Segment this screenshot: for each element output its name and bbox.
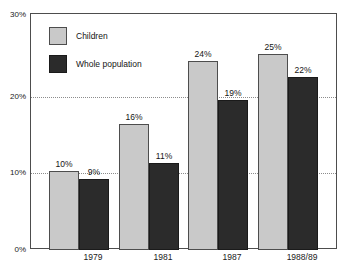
y-tick-label-0: 0% — [14, 245, 26, 254]
bar-whole-population-1988-89 — [288, 77, 318, 250]
value-label-whole-population-1987: 19% — [224, 88, 241, 98]
legend: Children Whole population — [49, 26, 142, 82]
y-tick-label-20: 20% — [10, 92, 26, 101]
legend-label-children: Children — [76, 31, 108, 41]
x-tick-label-1987: 1987 — [223, 252, 242, 262]
legend-item-whole-population: Whole population — [49, 54, 142, 74]
y-tick-label-10: 10% — [10, 168, 26, 177]
x-tick-label-1988-89: 1988/89 — [287, 252, 318, 262]
bar-children-1988-89 — [258, 54, 288, 250]
bar-chart-figure: 0% 10% 20% 30% 10% 9% 16% 11% 24% 19% 25… — [0, 0, 347, 274]
y-tick-label-30: 30% — [10, 10, 26, 19]
bar-whole-population-1981 — [149, 163, 179, 250]
bar-whole-population-1979 — [79, 179, 109, 250]
value-label-children-1987: 24% — [194, 49, 211, 59]
value-label-children-1979: 10% — [55, 159, 72, 169]
value-label-whole-population-1988-89: 22% — [294, 65, 311, 75]
legend-label-whole-population: Whole population — [76, 59, 142, 69]
x-tick-label-1981: 1981 — [154, 252, 173, 262]
legend-item-children: Children — [49, 26, 142, 46]
value-label-children-1988-89: 25% — [264, 42, 281, 52]
bar-children-1981 — [119, 124, 149, 250]
y-axis: 0% 10% 20% 30% — [0, 0, 28, 274]
value-label-whole-population-1979: 9% — [88, 167, 100, 177]
bar-children-1987 — [188, 61, 218, 250]
bar-children-1979 — [49, 171, 79, 250]
value-label-children-1981: 16% — [125, 112, 142, 122]
x-tick-label-1979: 1979 — [84, 252, 103, 262]
bar-whole-population-1987 — [218, 100, 248, 250]
legend-swatch-whole-population-icon — [49, 55, 67, 73]
plot-area: 10% 9% 16% 11% 24% 19% 25% 22% Children … — [30, 13, 337, 249]
x-axis: 1979 1981 1987 1988/89 — [30, 252, 337, 268]
value-label-whole-population-1981: 11% — [156, 151, 172, 161]
legend-swatch-children-icon — [49, 27, 67, 45]
